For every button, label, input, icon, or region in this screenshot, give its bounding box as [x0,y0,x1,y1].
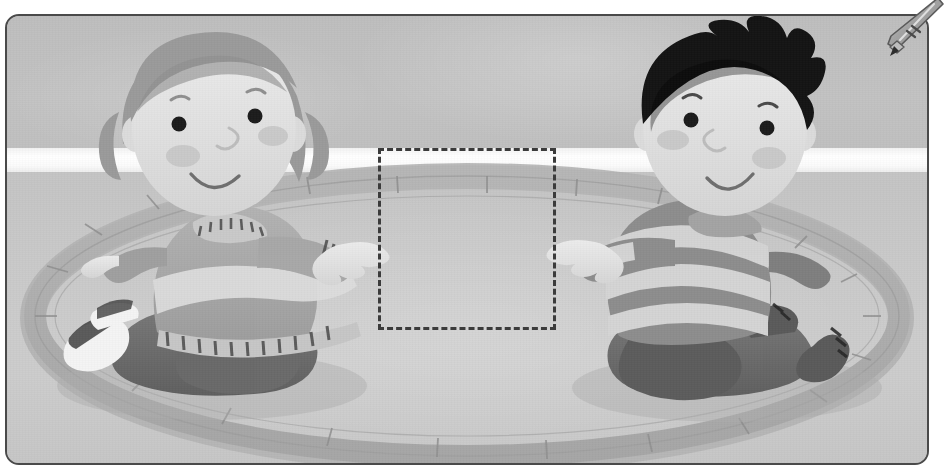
boy-character [546,16,882,422]
girl-eye-left [172,117,187,132]
boy-eye-left [684,113,699,128]
pencil-icon[interactable] [864,0,944,60]
illustration-frame [5,14,929,465]
boy-eye-right [760,121,775,136]
girl-eye-right [248,109,263,124]
scene [7,16,927,463]
answer-placeholder[interactable] [378,148,556,330]
